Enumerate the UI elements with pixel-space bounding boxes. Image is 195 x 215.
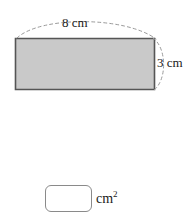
shaded-rectangle [16,39,155,90]
unit-exponent: 2 [113,189,118,199]
width-dimension-label: 8 cm [62,16,88,29]
unit-text: cm [96,191,113,206]
height-dimension-label: 3 cm [157,56,183,69]
answer-row: cm2 [45,185,118,212]
area-unit-label: cm2 [96,192,118,206]
area-answer-input[interactable] [45,185,92,212]
area-problem-figure: 8 cm 3 cm cm2 [0,0,195,215]
rectangle-diagram [0,0,195,215]
